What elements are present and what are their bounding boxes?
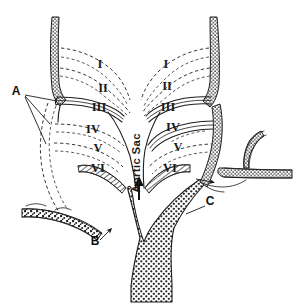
figure-root: I II III IV V VI I II III IV V VI A B C …: [0, 0, 301, 307]
aortic-arch-diagram: I II III IV V VI I II III IV V VI A B C …: [0, 0, 301, 307]
aortic-sac-label: Aortic Sac: [130, 133, 142, 193]
arch-label-left-4: IV: [86, 122, 100, 136]
arch-label-right-4: IV: [166, 120, 180, 134]
arch-label-left-6: VI: [91, 161, 105, 175]
point-label-c: C: [206, 194, 215, 208]
arch-label-left-5: V: [93, 141, 102, 155]
arch-label-left-3: III: [92, 100, 107, 114]
right-subclavian-branch: [218, 168, 292, 178]
arch-label-left-2: II: [98, 81, 108, 95]
arch-label-right-2: II: [162, 79, 172, 93]
point-label-b: B: [91, 234, 100, 248]
arch-label-right-1: I: [164, 57, 169, 71]
arch-label-right-5: V: [173, 140, 182, 154]
arch-label-right-3: III: [161, 100, 176, 114]
arch-label-left-1: I: [98, 57, 103, 71]
aortic-sac-label-group: Aortic Sac: [130, 133, 142, 193]
arch-label-right-6: VI: [163, 161, 177, 175]
point-label-a: A: [12, 84, 21, 98]
